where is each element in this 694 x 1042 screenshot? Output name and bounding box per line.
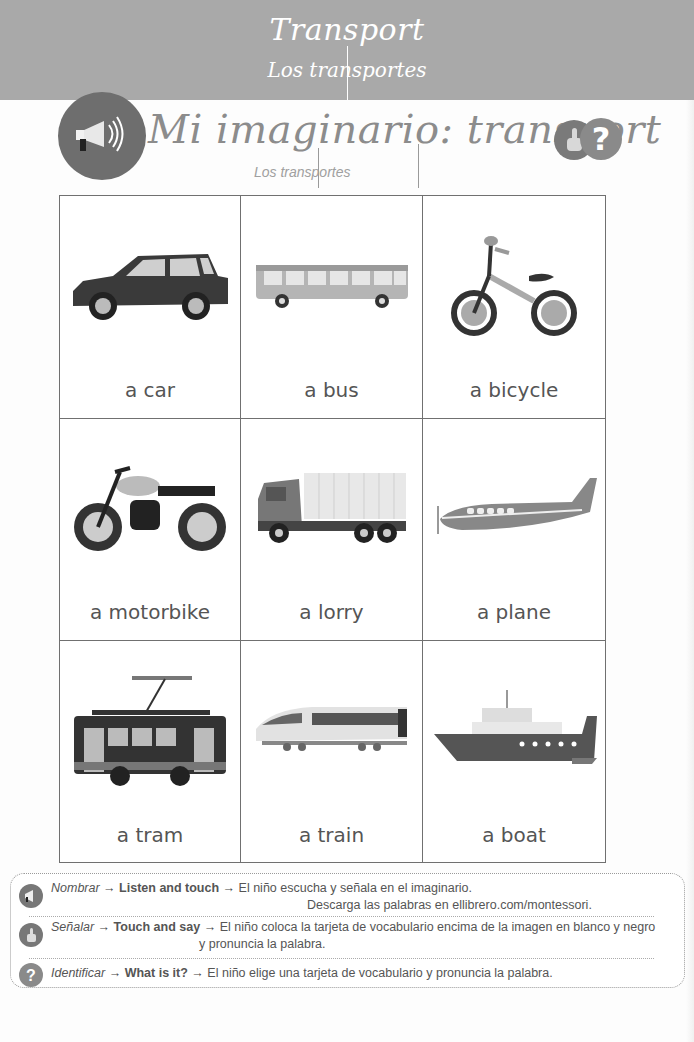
vocab-card-motorbike[interactable]: a motorbike <box>60 419 241 641</box>
instruction-action: What is it? <box>125 966 188 980</box>
train-icon <box>247 661 417 801</box>
vocab-card-car[interactable]: a car <box>60 196 241 419</box>
arrow-icon: → <box>109 966 122 980</box>
vocab-label: a train <box>241 823 422 847</box>
page-edge-shadow <box>686 100 694 1042</box>
vocab-card-bicycle[interactable]: a bicycle <box>423 196 605 419</box>
instruction-mode: Nombrar <box>51 881 100 895</box>
instruction-row-senalar: Señalar → Touch and say → El niño coloca… <box>11 919 684 961</box>
instruction-mode: Señalar <box>51 920 94 934</box>
vocabulary-grid: a car a bus <box>59 195 606 863</box>
arrow-icon: → <box>103 881 116 895</box>
instruction-line: Identificar → What is it? → El niño elig… <box>51 965 553 982</box>
vocab-card-train[interactable]: a train <box>241 641 423 863</box>
arrow-icon: → <box>223 881 236 895</box>
vocab-label: a boat <box>423 823 605 847</box>
vocab-label: a lorry <box>241 600 422 624</box>
page-subtitle: Los transportes <box>0 58 694 82</box>
pointing-hand-icon <box>19 923 43 947</box>
vocab-card-plane[interactable]: a plane <box>423 419 605 641</box>
megaphone-icon <box>19 884 43 908</box>
instruction-action: Listen and touch <box>119 881 219 895</box>
instruction-text: El niño coloca la tarjeta de vocabulario… <box>220 920 656 934</box>
divider <box>29 916 654 917</box>
page-title: Transport <box>0 12 694 47</box>
instruction-row-nombrar: Nombrar → Listen and touch → El niño esc… <box>11 880 684 918</box>
question-icon: ? <box>19 963 43 987</box>
arrow-icon: → <box>204 920 217 934</box>
instruction-line: Señalar → Touch and say → El niño coloca… <box>51 919 655 936</box>
vocab-card-tram[interactable]: a tram <box>60 641 241 863</box>
divider <box>29 958 654 959</box>
plane-icon <box>429 439 599 579</box>
section-header: Mi imaginario: transport Los transportes… <box>0 100 694 195</box>
vocab-card-lorry[interactable]: a lorry <box>241 419 423 641</box>
arrow-icon: → <box>98 920 111 934</box>
megaphone-icon <box>58 92 146 180</box>
vocab-card-boat[interactable]: a boat <box>423 641 605 863</box>
boat-icon <box>429 661 599 801</box>
instruction-mode: Identificar <box>51 966 105 980</box>
vocab-label: a plane <box>423 600 605 624</box>
header-band: Transport Los transportes <box>0 0 694 100</box>
instruction-action: Touch and say <box>114 920 201 934</box>
vocab-label: a bicycle <box>423 378 605 402</box>
title-ornament <box>418 144 419 188</box>
vocab-label: a car <box>60 378 240 402</box>
motorbike-icon <box>65 439 235 579</box>
instruction-line-2: y pronuncia la palabra. <box>199 936 325 953</box>
section-subtitle: Los transportes <box>254 164 351 180</box>
bicycle-icon <box>429 216 599 356</box>
instruction-text: El niño escucha y señala en el imaginari… <box>239 881 472 895</box>
car-icon <box>65 216 235 356</box>
question-icon: ? <box>580 118 622 160</box>
instructions-box: Nombrar → Listen and touch → El niño esc… <box>10 873 685 988</box>
instruction-line: Nombrar → Listen and touch → El niño esc… <box>51 880 472 897</box>
instruction-text: El niño elige una tarjeta de vocabulario… <box>207 966 552 980</box>
bus-icon <box>247 216 417 356</box>
instruction-row-identificar: ? Identificar → What is it? → El niño el… <box>11 962 684 988</box>
vocab-card-bus[interactable]: a bus <box>241 196 423 419</box>
instruction-line-2: Descarga las palabras en ellibrero.com/m… <box>307 897 592 914</box>
arrow-icon: → <box>191 966 204 980</box>
tram-icon <box>65 661 235 801</box>
vocab-label: a motorbike <box>60 600 240 624</box>
instruction-text-2: y pronuncia la palabra. <box>199 937 325 951</box>
lorry-icon <box>247 439 417 579</box>
vocab-label: a bus <box>241 378 422 402</box>
vocab-label: a tram <box>60 823 240 847</box>
instruction-text-2: Descarga las palabras en ellibrero.com/m… <box>307 898 592 912</box>
